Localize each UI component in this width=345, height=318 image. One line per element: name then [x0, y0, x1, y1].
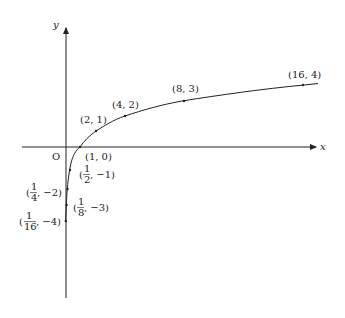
- label-eighth-neg3: ( 1 8 , −3): [73, 196, 109, 218]
- svg-text:, −2): , −2): [37, 187, 62, 198]
- point-16-4: [302, 84, 304, 86]
- svg-text:, −3): , −3): [84, 202, 109, 213]
- point-8-3: [183, 100, 185, 102]
- y-axis-label: y: [52, 19, 59, 30]
- label-16-4: (16, 4): [288, 69, 321, 80]
- svg-text:16: 16: [24, 221, 37, 232]
- label-2-1: (2, 1): [80, 114, 107, 125]
- svg-text:(: (: [79, 169, 83, 180]
- point-1-0: [79, 146, 81, 148]
- point-half: [69, 169, 71, 171]
- origin-label: O: [52, 151, 60, 162]
- svg-text:(: (: [19, 216, 23, 227]
- point-2-1: [95, 130, 97, 132]
- label-4-2: (4, 2): [112, 99, 139, 110]
- label-sixteenth-neg4: ( 1 16 , −4): [19, 210, 61, 232]
- point-4th: [66, 188, 68, 190]
- log-graph: x y O (2, 1) (4, 2) (8, 3) (16, 4) (1, 0…: [0, 0, 345, 318]
- label-8-3: (8, 3): [172, 83, 199, 94]
- label-quarter-neg2: ( 1 4 , −2): [26, 181, 62, 203]
- svg-text:, −1): , −1): [90, 169, 115, 180]
- point-16th: [65, 220, 67, 222]
- svg-text:, −4): , −4): [36, 216, 61, 227]
- x-axis-label: x: [320, 141, 326, 152]
- point-4-2: [124, 115, 126, 117]
- point-8th: [65, 204, 67, 206]
- label-half-neg1: ( 1 2 , −1): [79, 163, 115, 185]
- svg-text:1: 1: [26, 210, 32, 221]
- label-1-0: (1, 0): [85, 151, 112, 162]
- svg-text:(: (: [26, 187, 30, 198]
- svg-text:(: (: [73, 202, 77, 213]
